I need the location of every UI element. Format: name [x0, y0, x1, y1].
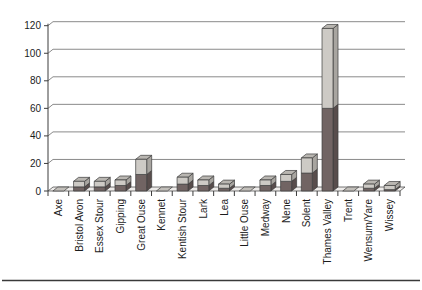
- front-light: [260, 180, 271, 186]
- front-dark: [94, 187, 105, 191]
- x-category-label-great-ouse: Great Ouse: [136, 199, 147, 251]
- x-category-label-wissey: Wissey: [384, 199, 395, 231]
- x-category-label-medway: Medway: [260, 199, 271, 236]
- x-category-label-nene: Nene: [281, 199, 292, 223]
- stacked-bar-chart-3d: 020406080100120AxeBristol AvonEssex Stou…: [0, 0, 422, 290]
- bar-essex-stour: [94, 177, 110, 191]
- bar-great-ouse: [136, 155, 152, 191]
- x-category-label-thames-valley: Thames Valley: [322, 199, 333, 264]
- front-dark: [198, 185, 209, 191]
- front-light: [115, 180, 126, 186]
- gridline-connector-100: [48, 49, 53, 53]
- front-light: [74, 181, 85, 187]
- x-category-label-solent: Solent: [301, 199, 312, 228]
- front-light: [94, 181, 105, 187]
- x-category-label-kennet: Kennet: [156, 199, 167, 231]
- front-dark: [260, 185, 271, 191]
- front-dark: [136, 174, 147, 191]
- x-category-label-wensum-yare: Wensum/Yare: [363, 199, 374, 262]
- x-category-label-essex-stour: Essex Stour: [94, 198, 105, 253]
- side-light: [333, 24, 338, 108]
- front-dark: [363, 188, 374, 191]
- x-category-label-trent: Trent: [343, 199, 354, 222]
- gridline-connector-20: [48, 159, 53, 163]
- bar-lark: [198, 176, 214, 191]
- y-tick-label-80: 80: [30, 75, 42, 86]
- gridline-connector-80: [48, 77, 53, 81]
- y-tick-label-40: 40: [30, 130, 42, 141]
- x-category-label-lea: Lea: [219, 199, 230, 216]
- y-tick-label-120: 120: [24, 20, 41, 31]
- bar-wensum-yare: [363, 180, 379, 191]
- bar-gipping: [115, 176, 131, 191]
- bar-kentish-stour: [177, 173, 193, 191]
- front-light: [301, 158, 312, 173]
- y-tick-label-0: 0: [35, 186, 41, 197]
- front-light: [219, 184, 230, 188]
- side-dark: [333, 104, 338, 191]
- front-dark: [322, 108, 333, 191]
- bar-medway: [260, 176, 276, 191]
- front-dark: [281, 181, 292, 191]
- x-category-label-axe: Axe: [53, 199, 64, 217]
- front-light: [322, 28, 333, 108]
- front-light: [363, 184, 374, 188]
- gridline-connector-120: [48, 22, 53, 26]
- front-light: [136, 159, 147, 174]
- gridline-connector-60: [48, 104, 53, 108]
- bar-bristol-avon: [74, 177, 90, 191]
- bar-nene: [281, 170, 297, 191]
- x-category-label-gipping: Gipping: [115, 199, 126, 233]
- bar-thames-valley: [322, 24, 338, 191]
- x-category-label-kentish-stour: Kentish Stour: [177, 198, 188, 259]
- front-light: [198, 180, 209, 186]
- front-dark: [301, 173, 312, 191]
- y-tick-label-60: 60: [30, 103, 42, 114]
- gridline-connector-40: [48, 132, 53, 136]
- chart-page: 020406080100120AxeBristol AvonEssex Stou…: [0, 0, 422, 290]
- front-dark: [74, 187, 85, 191]
- x-category-label-little-ouse: Little Ouse: [239, 199, 250, 247]
- y-tick-label-20: 20: [30, 158, 42, 169]
- x-category-label-lark: Lark: [198, 198, 209, 218]
- front-dark: [219, 188, 230, 191]
- front-light: [384, 185, 395, 189]
- y-tick-label-100: 100: [24, 48, 41, 59]
- front-light: [281, 174, 292, 181]
- front-dark: [115, 185, 126, 191]
- front-light: [177, 177, 188, 184]
- bar-lea: [219, 180, 235, 191]
- front-dark: [177, 184, 188, 191]
- bar-solent: [301, 154, 317, 191]
- x-category-label-bristol-avon: Bristol Avon: [74, 199, 85, 252]
